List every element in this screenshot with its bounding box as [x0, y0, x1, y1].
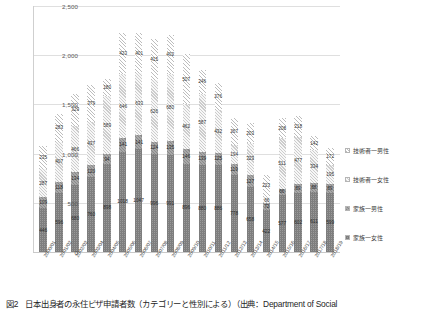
bar-segment[interactable]: 599	[326, 193, 334, 252]
bar-segment[interactable]: 141	[119, 138, 127, 152]
bar-segment[interactable]: 462	[183, 104, 191, 149]
bar-column[interactable]: 203323127658	[242, 6, 258, 252]
bar-column[interactable]: 14233488611	[306, 6, 322, 252]
bar-column[interactable]: 402680135991	[163, 6, 179, 252]
bar-segment[interactable]: 1047	[135, 149, 143, 252]
bar-column[interactable]: 20851166577	[274, 6, 290, 252]
bar-segment[interactable]: 402	[167, 35, 175, 75]
bar-segment[interactable]: 223	[263, 175, 271, 197]
bar-segment[interactable]: 1018	[119, 152, 127, 252]
stacked-bar[interactable]: 21847789602	[294, 116, 302, 252]
stacked-bar[interactable]: 235287109446	[39, 146, 47, 252]
legend-item[interactable]: 技術者一女性	[345, 165, 421, 194]
bar-segment[interactable]: 109	[39, 197, 47, 208]
bar-column[interactable]: 415626124996	[147, 6, 163, 252]
bar-column[interactable]: 267194119778	[226, 6, 242, 252]
bar-column[interactable]: 276432125886	[210, 6, 226, 252]
bar-segment[interactable]: 89	[294, 184, 302, 193]
bar-segment[interactable]: 880	[199, 165, 207, 252]
bar-segment[interactable]: 125	[215, 153, 223, 165]
bar-segment[interactable]: 172	[326, 148, 334, 165]
bar-segment[interactable]: 194	[231, 145, 239, 164]
bar-column[interactable]: 2236672422	[258, 6, 274, 252]
bar-segment[interactable]: 88	[310, 183, 318, 192]
bar-segment[interactable]: 141	[135, 135, 143, 149]
bar-segment[interactable]: 996	[151, 154, 159, 252]
legend-item[interactable]: 家族一女性	[345, 223, 421, 252]
bar-segment[interactable]: 218	[294, 116, 302, 137]
stacked-bar[interactable]: 18058994898	[103, 79, 111, 252]
bar-segment[interactable]: 587	[199, 94, 207, 152]
stacked-bar[interactable]: 246587139880	[199, 70, 207, 252]
stacked-bar[interactable]: 507462146896	[183, 54, 191, 252]
bar-segment[interactable]: 626	[151, 80, 159, 142]
bar-segment[interactable]: 267	[231, 118, 239, 144]
bar-segment[interactable]: 896	[183, 164, 191, 252]
bar-segment[interactable]: 208	[279, 118, 287, 138]
bar-segment[interactable]: 602	[294, 193, 302, 252]
bar-column[interactable]: 17219589599	[322, 6, 338, 252]
bar-segment[interactable]: 507	[183, 54, 191, 104]
bar-column[interactable]: 379437120760	[83, 6, 99, 252]
stacked-bar[interactable]: 2236672422	[263, 175, 271, 252]
bar-segment[interactable]: 407	[55, 142, 63, 182]
bar-segment[interactable]: 180	[103, 79, 111, 97]
stacked-bar[interactable]: 20851166577	[279, 118, 287, 252]
stacked-bar[interactable]: 379437120760	[87, 85, 95, 252]
bar-segment[interactable]: 135	[167, 141, 175, 154]
bar-column[interactable]: 507462146896	[179, 6, 195, 252]
stacked-bar[interactable]: 4016331411047	[135, 33, 143, 252]
bar-segment[interactable]: 680	[167, 74, 175, 141]
bar-segment[interactable]: 142	[310, 136, 318, 150]
stacked-bar[interactable]: 276432125886	[215, 83, 223, 252]
bar-segment[interactable]: 446	[39, 208, 47, 252]
bar-segment[interactable]: 329	[71, 94, 79, 126]
bar-segment[interactable]: 127	[247, 175, 255, 187]
bar-column[interactable]: 4016331411047	[131, 6, 147, 252]
bar-segment[interactable]: 633	[135, 73, 143, 135]
bar-segment[interactable]: 334	[310, 150, 318, 183]
stacked-bar[interactable]: 17219589599	[326, 148, 334, 252]
bar-segment[interactable]: 146	[183, 149, 191, 163]
bar-column[interactable]: 329466134680	[67, 6, 83, 252]
bar-column[interactable]: 4236461411018	[115, 6, 131, 252]
bar-segment[interactable]: 415	[151, 39, 159, 80]
bar-segment[interactable]: 511	[279, 138, 287, 188]
bar-column[interactable]: 235287109446	[35, 6, 51, 252]
bar-segment[interactable]: 89	[326, 184, 334, 193]
bar-segment[interactable]: 401	[135, 33, 143, 72]
stacked-bar[interactable]: 329466134680	[71, 94, 79, 252]
bar-segment[interactable]: 203	[247, 123, 255, 143]
bar-segment[interactable]: 589	[103, 96, 111, 154]
bar-segment[interactable]: 477	[294, 137, 302, 184]
stacked-bar[interactable]: 267194119778	[231, 118, 239, 252]
bar-segment[interactable]: 432	[215, 110, 223, 153]
bar-column[interactable]: 246587139880	[195, 6, 211, 252]
bar-column[interactable]: 283407118596	[51, 6, 67, 252]
bar-segment[interactable]: 235	[39, 146, 47, 169]
bar-segment[interactable]: 134	[71, 172, 79, 185]
bar-column[interactable]: 21847789602	[290, 6, 306, 252]
bar-segment[interactable]: 139	[199, 152, 207, 166]
bar-segment[interactable]: 118	[55, 182, 63, 194]
bar-segment[interactable]: 646	[119, 74, 127, 138]
bar-segment[interactable]: 437	[87, 122, 95, 165]
stacked-bar[interactable]: 14233488611	[310, 136, 318, 252]
bar-segment[interactable]: 778	[231, 175, 239, 252]
bar-segment[interactable]: 94	[103, 154, 111, 163]
bar-segment[interactable]: 120	[87, 165, 95, 177]
bar-segment[interactable]: 760	[87, 177, 95, 252]
bar-segment[interactable]: 379	[87, 85, 95, 122]
bar-segment[interactable]: 124	[151, 142, 159, 154]
bar-segment[interactable]: 886	[215, 165, 223, 252]
bar-segment[interactable]: 72	[263, 203, 271, 210]
bar-segment[interactable]: 323	[247, 143, 255, 175]
stacked-bar[interactable]: 415626124996	[151, 39, 159, 252]
bar-segment[interactable]: 283	[55, 114, 63, 142]
bar-segment[interactable]: 422	[263, 210, 271, 252]
bar-segment[interactable]: 898	[103, 164, 111, 252]
stacked-bar[interactable]: 203323127658	[247, 123, 255, 252]
legend-item[interactable]: 技術者一男性	[345, 136, 421, 165]
bar-segment[interactable]: 466	[71, 126, 79, 172]
stacked-bar[interactable]: 283407118596	[55, 114, 63, 252]
